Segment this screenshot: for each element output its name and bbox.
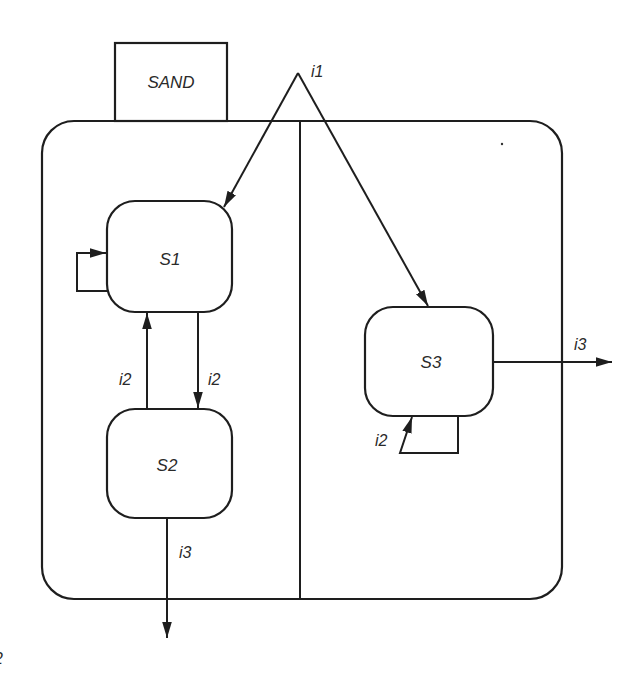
statechart-diagram: SAND i1 S1 S2 i2 i2 i3 S3 i3 i2 2: [0, 0, 641, 679]
arrow-s1-self-loop: [77, 253, 108, 291]
stray-dot: [501, 143, 503, 145]
label-s2-exit: i3: [179, 544, 192, 561]
arrow-i1-to-s1: [224, 73, 298, 207]
cropped-glyph: 2: [0, 650, 3, 667]
label-s3-exit: i3: [574, 336, 587, 353]
label-s1-to-s2: i2: [208, 371, 221, 388]
state-s1: S1: [107, 201, 232, 312]
state-s2-label: S2: [157, 456, 178, 475]
state-s2: S2: [107, 409, 232, 518]
transition-i1: i1: [224, 63, 428, 306]
state-s3-label: S3: [421, 353, 442, 372]
label-s3-self: i2: [375, 432, 388, 449]
state-s1-label: S1: [160, 250, 181, 269]
superstate-label: SAND: [147, 73, 194, 92]
label-s2-to-s1: i2: [119, 371, 132, 388]
arrow-s3-self-loop: [400, 416, 458, 453]
state-s3: S3: [365, 307, 493, 416]
superstate-name-tab: SAND: [115, 43, 227, 121]
arrow-i1-to-s3: [298, 73, 428, 306]
label-i1: i1: [311, 63, 323, 80]
